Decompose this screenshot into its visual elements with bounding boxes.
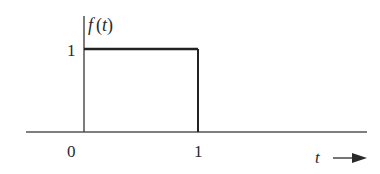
x-axis-label: t [315,148,321,167]
x-tick-label-0: 0 [67,142,76,161]
arrow-right-icon [333,153,367,163]
pulse-diagram: f(t) 1 0 1 t [0,0,380,174]
y-axis-label: f(t) [88,15,113,36]
y-tick-label-1: 1 [67,41,76,60]
x-tick-label-1: 1 [194,142,203,161]
